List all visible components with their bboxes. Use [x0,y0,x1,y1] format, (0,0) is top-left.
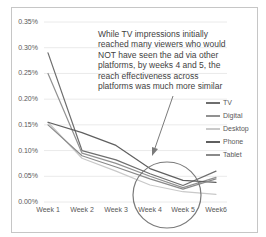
legend-swatch [206,102,220,104]
chart-canvas: 0.35%0.30%0.25%0.20%0.15%0.10%0.05%0.00%… [0,0,266,237]
callout-text: While TV impressions initiallyreached ma… [98,29,256,91]
y-tick-label: 0.05% [8,172,38,180]
legend-label: Tablet [223,151,242,158]
legend-swatch [206,141,220,143]
legend-label: Digital [223,112,242,119]
legend: TVDigitalDesktopPhoneTablet [206,96,249,161]
x-tick-label: Week 1 [31,206,65,214]
y-tick-label: 0.30% [8,44,38,52]
legend-item-desktop: Desktop [206,122,249,135]
legend-item-digital: Digital [206,109,249,122]
x-tick-label: Week 2 [65,206,99,214]
y-tick-label: 0.10% [8,147,38,155]
y-tick-label: 0.35% [8,18,38,26]
legend-item-tv: TV [206,96,249,109]
callout-line: platforms was much more similar [98,81,256,91]
y-tick-label: 0.15% [8,121,38,129]
callout-arrow-line [155,96,173,148]
y-tick-label: 0.00% [8,198,38,206]
x-tick-label: Week6 [199,206,233,214]
highlight-circle [133,162,201,228]
legend-item-tablet: Tablet [206,148,249,161]
y-tick-label: 0.20% [8,95,38,103]
callout-line: reached many viewers who would [98,39,256,49]
legend-label: TV [223,99,232,106]
callout-arrow-head [152,147,158,156]
legend-item-phone: Phone [206,135,249,148]
x-tick-label: Week 3 [99,206,133,214]
legend-label: Desktop [223,125,249,132]
legend-label: Phone [223,138,243,145]
y-tick-label: 0.25% [8,69,38,77]
callout-line: While TV impressions initially [98,29,256,39]
legend-swatch [206,154,220,156]
x-tick-label: Week 5 [166,206,200,214]
callout-line: platforms, by weeks 4 and 5, the [98,60,256,70]
x-tick-label: Week 4 [133,206,167,214]
legend-swatch [206,115,220,117]
callout-line: NOT have seen the ad via other [98,50,256,60]
callout-line: reach effectiveness across [98,71,256,81]
legend-swatch [206,128,220,130]
